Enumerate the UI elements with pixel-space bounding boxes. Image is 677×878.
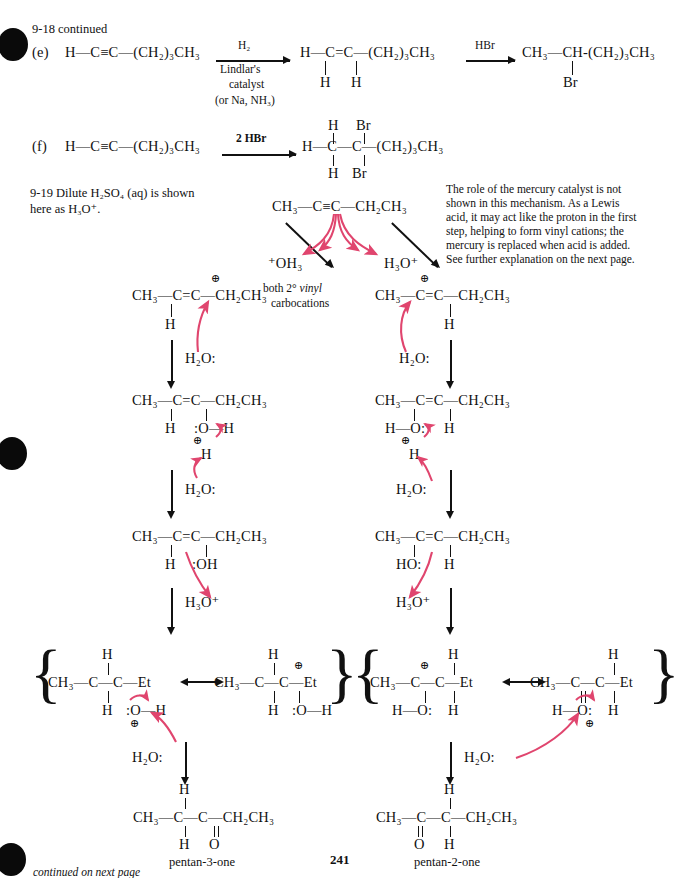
left-resonance-b-bot-oh: :O—H [292,702,332,719]
left-oxonium-sub-h: H [165,420,176,437]
right-resonance-b-bot-h: H [608,702,619,719]
left-arrow-step-2 [171,470,173,512]
starting-material: CH₃—C≡C—CH₂CH₃ [272,198,407,215]
part-e-reagent-top: H₂ [238,39,250,51]
left-water-base-arrow [194,458,201,478]
right-product-top-h: H [444,781,455,798]
part-f-product-bot-1: H [328,165,339,182]
reagent-left-oxonium: ⁺OH₃ [268,255,302,272]
part-e-product-1-sub-2: H [351,74,362,91]
right-resonance-b-main: CH₃—C—C—Et [530,674,633,691]
right-final-base-water: H₂O: [464,749,495,766]
left-oxonium-main: CH₃—C=C—CH₂CH₃ [132,392,267,409]
right-resonance-a-charge: ⊕ [420,659,429,672]
right-nucleophile-water: H₂O: [399,350,430,367]
right-resonance-a-main: CH₃—C—C—Et [370,674,473,691]
part-f-product-top-1: H [328,117,339,134]
left-resonance-b-main: CH₃—C—C—Et [214,674,317,691]
part-e-product-2-sub: Br [563,74,578,91]
pi-arrow-right-inner [320,214,336,250]
footer-note: continued on next page [33,866,140,878]
right-enol-main: CH₃—C=C—CH₂CH₃ [375,528,510,545]
left-base-water: H₂O: [185,481,216,498]
right-resonance-b-top-h: H [608,646,619,663]
left-cation-sub-h: H [165,316,176,333]
left-product-name: pentan-3-one [169,855,235,870]
part-f-arrow [222,154,296,156]
left-cation-charge: ⊕ [211,272,220,285]
mercury-annotation-line-2: shown in this mechanism. As a Lewis [446,197,619,209]
left-oxonium-extra-h: H [201,446,212,463]
left-resonance-b-bot-h: H [268,702,279,719]
right-cation-charge: ⊕ [420,272,429,285]
right-water-attack-arrow [401,302,410,352]
left-resonance-a-top-h: H [102,646,113,663]
part-f-product-bot-2: Br [352,165,367,182]
right-acid-hydronium: H₃O⁺ [396,594,430,611]
right-resonance-b-charge: ⊕ [585,717,594,730]
punch-hole-middle [0,437,27,470]
mercury-annotation-line-5: mercury is replaced when acid is added. [446,239,630,251]
part-e-bond-h1 [325,61,326,75]
left-water-attack-arrow [197,302,208,352]
part-e-reagent-line-3: (or Na, NH₃) [215,94,275,106]
right-product-bot-h: H [444,836,455,853]
carbocation-note-prefix: both 2° [263,282,300,294]
part-e-product-2: CH₃—CH-(CH₂)₃CH₃ [522,44,655,61]
left-enol-sub-oh: :OH [192,556,218,573]
part-e-bond-br [572,61,573,75]
mercury-annotation-line-6: See further explanation on the next page… [446,253,635,265]
page-header: 9-18 continued [32,22,107,37]
left-cation: CH₃—C=C—CH₂CH₃ [132,287,267,304]
carbocation-note-line-2: carbocations [271,297,329,309]
left-resonance-shift-arrow [130,696,148,701]
part-e-reactant: H—C≡C—(CH₂)₃CH₃ [65,44,200,61]
left-enol-sub-h: H [165,556,176,573]
part-e-arrow-2 [466,60,515,62]
left-product-top-h: H [179,781,190,798]
mercury-annotation-line-3: acid, it may act like the proton in the … [446,211,636,223]
left-nucleophile-water: H₂O: [185,350,216,367]
right-enol-sub-h: H [444,556,455,573]
left-arrow-step-4 [185,742,187,778]
part-f-reagent-text: 2 HBr [236,132,266,144]
left-arrow-step-1 [171,340,173,382]
right-arrow-step-3 [450,588,452,628]
part-f-label: (f) [32,138,47,155]
right-resonance-a-top-h: H [448,646,459,663]
reagent-right-hydronium: H₃O⁺ [384,255,418,272]
part-e-reagent-2: HBr [475,39,495,51]
right-oxonium-sub-h: H [444,420,455,437]
left-product-main: CH₃—C—C—CH₂CH₃ [133,809,274,826]
part-e-arrow-1 [216,60,290,62]
part-f-reactant: H—C≡C—(CH₂)₃CH₃ [65,138,200,155]
part-e-product-1: H—C=C—(CH₂)₃CH₃ [300,44,435,61]
right-final-deprotonation-arrow [516,714,578,758]
right-bracket-close: } [648,646,677,700]
part-e-reagent-line-1: Lindlar's [220,63,260,75]
pi-arrow-right [340,214,376,254]
right-oxonium-main: CH₃—C=C—CH₂CH₃ [375,392,510,409]
right-arrow-step-1 [450,340,452,382]
left-final-base-water: H₂O: [132,749,163,766]
left-enol-main: CH₃—C=C—CH₂CH₃ [132,528,267,545]
pi-arrow-left [304,214,334,254]
right-product-bond-top [450,798,451,809]
right-arrow-step-2 [450,470,452,512]
part-f-product-mid: H—C—C—(CH₂)₃CH₃ [302,138,443,155]
left-resonance-a-main: CH₃—C—C—Et [48,674,151,691]
right-resonance-a-bot-h: H [448,702,459,719]
right-cation-sub-h: H [444,316,455,333]
left-resonance-b-charge: ⊕ [294,659,303,672]
part-e-bond-h2 [356,61,357,75]
right-base-water: H₂O: [396,481,427,498]
right-product-bot-o: O [414,836,425,853]
right-product-name: pentan-2-one [414,855,480,870]
punch-hole-bottom [0,843,26,876]
left-product-bond-top [185,798,186,809]
left-acid-hydronium: H₃O⁺ [185,594,219,611]
page-number: 241 [330,852,350,868]
right-water-base-arrow [418,457,432,481]
carbocation-note-italic: vinyl [300,282,322,294]
